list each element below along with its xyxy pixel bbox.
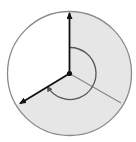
center-point bbox=[67, 71, 72, 76]
reflex-angle-diagram bbox=[0, 0, 136, 142]
